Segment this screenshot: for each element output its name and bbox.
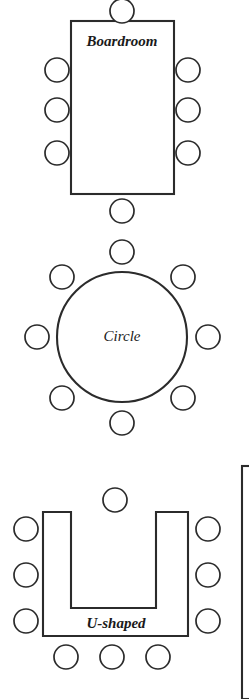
boardroom-chair-left-3	[45, 141, 69, 165]
boardroom-chair-left-1	[45, 58, 69, 82]
u-shaped-chair-top	[103, 488, 127, 512]
cropped-table-edge	[242, 466, 249, 699]
circle-chair-bottom-left	[50, 386, 74, 410]
boardroom-chair-right-1	[176, 58, 200, 82]
u-shaped-chair-left-1	[14, 517, 38, 541]
circle-label: Circle	[104, 328, 141, 344]
circle-chair-top-left	[50, 265, 74, 289]
u-shaped-label: U-shaped	[86, 615, 146, 631]
u-shaped-chair-right-2	[196, 563, 220, 587]
boardroom-chair-right-2	[176, 98, 200, 122]
circle-chair-bottom-right	[171, 386, 195, 410]
u-shaped-chair-left-3	[14, 609, 38, 633]
boardroom-chair-top	[110, 0, 134, 23]
boardroom-chair-right-3	[176, 141, 200, 165]
layout-circle: Circle	[25, 240, 220, 435]
circle-chair-top	[110, 240, 134, 264]
boardroom-label: Boardroom	[86, 33, 158, 49]
layout-u-shaped: U-shaped	[14, 488, 220, 669]
boardroom-chair-bottom	[110, 199, 134, 223]
u-shaped-chair-right-3	[196, 609, 220, 633]
u-shaped-chair-left-2	[14, 563, 38, 587]
u-shaped-chair-bottom-1	[54, 645, 78, 669]
seating-arrangements-figure: Boardroom Circle	[0, 0, 249, 699]
diagram-canvas: Boardroom Circle	[0, 0, 249, 699]
circle-chair-right	[196, 325, 220, 349]
layout-boardroom: Boardroom	[45, 0, 200, 223]
u-shaped-chair-bottom-2	[100, 645, 124, 669]
cropped-table-edge-rect	[242, 466, 249, 699]
u-shaped-chair-bottom-3	[146, 645, 170, 669]
circle-chair-bottom	[110, 411, 134, 435]
boardroom-chair-left-2	[45, 98, 69, 122]
circle-chair-top-right	[171, 265, 195, 289]
circle-chair-left	[25, 325, 49, 349]
u-shaped-chair-right-1	[196, 517, 220, 541]
